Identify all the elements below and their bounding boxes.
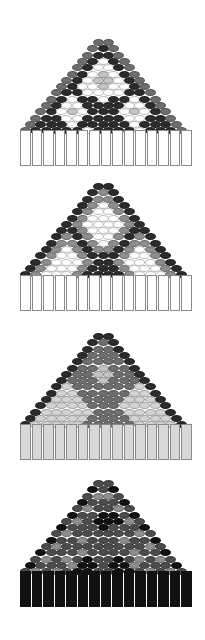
fringe-bar bbox=[20, 424, 31, 460]
fringe-bar bbox=[55, 130, 66, 166]
fringe-bar bbox=[112, 130, 123, 166]
fringe-bar bbox=[55, 424, 66, 460]
fringe-bar bbox=[135, 275, 146, 311]
fringe-bar bbox=[124, 424, 135, 460]
fringe-bar bbox=[43, 130, 54, 166]
fringe-bar bbox=[181, 571, 192, 607]
fringe-bar bbox=[101, 275, 112, 311]
fringe-bar bbox=[32, 571, 43, 607]
fringe-bar bbox=[66, 571, 77, 607]
fringe-bar bbox=[55, 571, 66, 607]
fringe-bar bbox=[20, 130, 31, 166]
fringe-bar bbox=[158, 275, 169, 311]
fringe-bar bbox=[112, 275, 123, 311]
fringe-bar bbox=[89, 275, 100, 311]
fringe-bar bbox=[170, 424, 181, 460]
fringe-bar bbox=[135, 571, 146, 607]
fringe-bar bbox=[89, 571, 100, 607]
fringe-bar bbox=[147, 130, 158, 166]
fringe-bar bbox=[43, 424, 54, 460]
fringe-bar bbox=[89, 424, 100, 460]
fringe-bar bbox=[147, 275, 158, 311]
fringe-bars bbox=[20, 571, 193, 607]
fringe-bar bbox=[78, 275, 89, 311]
fringe-bar bbox=[101, 571, 112, 607]
fringe-bar bbox=[170, 275, 181, 311]
fringe-bar bbox=[78, 130, 89, 166]
fringe-bar bbox=[135, 424, 146, 460]
fringe-bar bbox=[66, 424, 77, 460]
fringe-bar bbox=[43, 571, 54, 607]
fringe-bar bbox=[181, 130, 192, 166]
fringe-bar bbox=[147, 571, 158, 607]
fringe-bar bbox=[124, 275, 135, 311]
fringe-bar bbox=[78, 424, 89, 460]
fringe-bar bbox=[32, 424, 43, 460]
fringe-bar bbox=[124, 571, 135, 607]
fringe-bar bbox=[170, 130, 181, 166]
fringe-bar bbox=[89, 130, 100, 166]
fringe-bar bbox=[20, 571, 31, 607]
fringe-bars bbox=[20, 424, 193, 460]
fringe-bar bbox=[112, 424, 123, 460]
fringe-bar bbox=[158, 571, 169, 607]
fringe-bar bbox=[32, 275, 43, 311]
fringe-bar bbox=[124, 130, 135, 166]
fringe-bar bbox=[112, 571, 123, 607]
fringe-bar bbox=[170, 571, 181, 607]
fringe-bar bbox=[55, 275, 66, 311]
fringe-bar bbox=[66, 275, 77, 311]
fringe-bar bbox=[158, 130, 169, 166]
fringe-bar bbox=[181, 424, 192, 460]
fringe-bar bbox=[158, 424, 169, 460]
fringe-bar bbox=[101, 130, 112, 166]
fringe-bar bbox=[66, 130, 77, 166]
fringe-bar bbox=[135, 130, 146, 166]
fringe-bar bbox=[147, 424, 158, 460]
fringe-bar bbox=[32, 130, 43, 166]
fringe-bar bbox=[78, 571, 89, 607]
fringe-bar bbox=[43, 275, 54, 311]
fringe-bar bbox=[20, 275, 31, 311]
fringe-bars bbox=[20, 130, 193, 166]
fringe-bars bbox=[20, 275, 193, 311]
fringe-bar bbox=[101, 424, 112, 460]
fringe-bar bbox=[181, 275, 192, 311]
